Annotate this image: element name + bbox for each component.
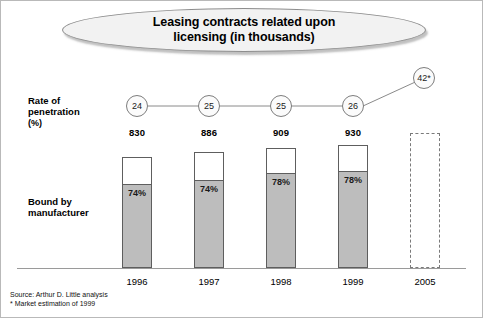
bar-2005-projected [410, 133, 440, 268]
bar-fill-1999: 78% [339, 171, 367, 267]
bar-1997: 74% [194, 152, 224, 268]
bar-fill-1998: 78% [267, 173, 295, 267]
value-label-1996: 830 [114, 127, 160, 138]
penetration-node-2005: 42* [413, 67, 435, 89]
x-tick-1997: 1997 [182, 276, 236, 287]
chart-plot-area: 24 25 25 26 42* 830 886 909 930 74% 74% … [0, 0, 484, 319]
bar-1998: 78% [266, 148, 296, 268]
bar-1996: 74% [122, 157, 152, 268]
value-label-1997: 886 [186, 127, 232, 138]
bar-pct-1997: 74% [195, 184, 223, 194]
penetration-node-1996: 24 [126, 95, 148, 117]
value-label-1999: 930 [330, 127, 376, 138]
bar-fill-1997: 74% [195, 180, 223, 267]
x-tick-2005: 2005 [398, 276, 452, 287]
bar-fill-1996: 74% [123, 184, 151, 267]
bar-1999: 78% [338, 145, 368, 268]
x-tick-1999: 1999 [326, 276, 380, 287]
bar-pct-1999: 78% [339, 175, 367, 185]
bar-pct-1996: 74% [123, 188, 151, 198]
x-tick-1998: 1998 [254, 276, 308, 287]
penetration-node-1998: 25 [270, 95, 292, 117]
penetration-node-1997: 25 [198, 95, 220, 117]
penetration-node-1999: 26 [342, 95, 364, 117]
axis-baseline [17, 268, 466, 269]
bar-pct-1998: 78% [267, 177, 295, 187]
footnotes: Source: Arthur D. Little analysis * Mark… [10, 290, 108, 308]
footnote-source: Source: Arthur D. Little analysis [10, 290, 108, 299]
value-label-1998: 909 [258, 127, 304, 138]
footnote-note: * Market estimation of 1999 [10, 299, 108, 308]
x-tick-1996: 1996 [110, 276, 164, 287]
